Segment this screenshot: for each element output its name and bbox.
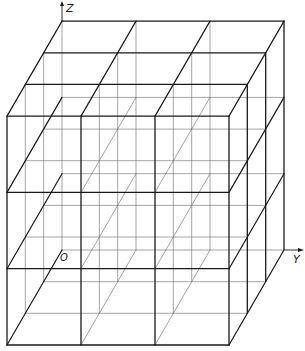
lattice-edge-y [155,174,210,269]
coordinate-axes: Z Y O [60,1,304,266]
lattice-edge-y [155,21,210,116]
lattice-edge-y [229,97,284,192]
y-axis-arrow-icon [298,248,304,252]
lattice-edge-y [229,21,284,116]
lattice-edge-y [81,21,136,116]
lattice-edge-y [155,97,210,192]
lattice-edge-y [81,174,136,269]
z-axis-label: Z [65,2,74,15]
outer-edge-lines [7,21,284,345]
lattice-edge-y [7,174,62,269]
y-axis-label: Y [293,253,301,266]
lattice-edge-y [7,97,62,192]
lattice-edge-y [229,250,284,345]
lattice-edge-y [155,250,210,345]
lattice-edge-y [7,250,62,345]
origin-label: O [60,252,68,263]
lattice-edge-y [81,250,136,345]
lattice-edge-y [229,174,284,269]
z-axis-arrow-icon [60,1,64,6]
lattice-diagram: Z Y O [0,0,305,351]
lattice-edge-y [7,21,62,116]
cubic-lattice-wireframe: Z Y O [0,0,305,351]
lattice-edge-y [81,97,136,192]
